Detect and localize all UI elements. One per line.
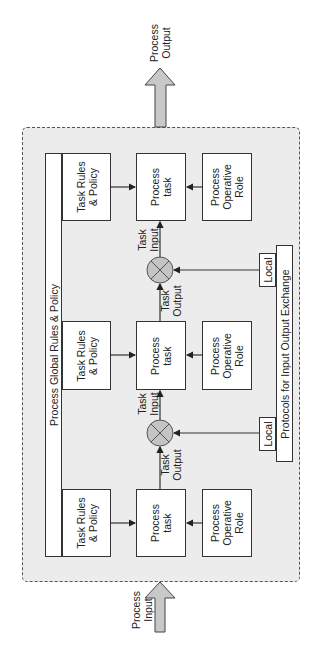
- process-task-box-1: Process task: [136, 489, 186, 557]
- protocols-bar: Protocols for Input Output Exchange: [276, 245, 293, 462]
- protocols-label: Protocols for Input Output Exchange: [279, 269, 291, 438]
- local-label: Local: [262, 257, 274, 282]
- task-input-label-upper: Task Input: [136, 228, 160, 251]
- global-rules-label: Process Global Rules & Policy: [48, 284, 60, 426]
- process-task-box-2: Process task: [136, 321, 186, 390]
- local-box-lower: Local: [259, 417, 276, 451]
- output-arrow-icon: [145, 68, 175, 127]
- process-task-box-3: Process task: [136, 153, 186, 221]
- task-output-label-lower: Task Output: [159, 449, 183, 481]
- process-output-label: Process Output: [148, 24, 172, 62]
- operative-role-label: Process Operative Role: [209, 500, 245, 546]
- process-task-label: Process task: [149, 168, 173, 206]
- operative-role-box-1: Process Operative Role: [202, 489, 252, 557]
- task-rules-box-2: Task Rules & Policy: [62, 321, 111, 390]
- task-rules-label: Task Rules & Policy: [75, 497, 99, 548]
- local-label: Local: [262, 421, 274, 446]
- operative-role-box-3: Process Operative Role: [202, 153, 252, 221]
- task-rules-label: Task Rules & Policy: [75, 330, 99, 381]
- process-input-label: Process Input: [130, 591, 154, 629]
- operative-role-box-2: Process Operative Role: [202, 321, 252, 390]
- task-rules-label: Task Rules & Policy: [75, 161, 99, 212]
- task-input-label-lower: Task Input: [136, 392, 160, 415]
- process-task-label: Process task: [149, 337, 173, 375]
- task-output-label-upper: Task Output: [159, 285, 183, 317]
- operative-role-label: Process Operative Role: [209, 164, 245, 210]
- global-rules-bar: Process Global Rules & Policy: [45, 153, 62, 557]
- process-task-label: Process task: [149, 504, 173, 542]
- task-rules-box-3: Task Rules & Policy: [62, 153, 111, 221]
- local-box-upper: Local: [259, 253, 276, 287]
- operative-role-label: Process Operative Role: [209, 333, 245, 379]
- task-rules-box-1: Task Rules & Policy: [62, 489, 111, 557]
